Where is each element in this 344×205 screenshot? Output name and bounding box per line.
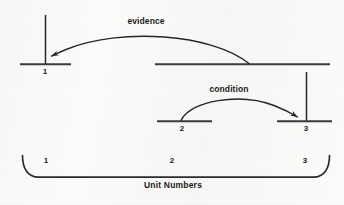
label-brace-unit-1: 1 bbox=[44, 157, 49, 165]
label-segment-middle-left-number: 2 bbox=[180, 125, 185, 133]
label-segment-top-left-number: 1 bbox=[43, 68, 48, 76]
unit-numbers-brace bbox=[23, 156, 330, 178]
label-arc-condition: condition bbox=[209, 85, 248, 94]
label-brace-unit-2: 2 bbox=[170, 157, 175, 165]
caption-unit-numbers: Unit Numbers bbox=[144, 181, 202, 190]
label-segment-middle-right-number: 3 bbox=[304, 125, 309, 133]
diagram-canvas: 1 evidence 2 3 condition 1 2 3 Unit Numb… bbox=[0, 0, 344, 205]
label-arc-evidence: evidence bbox=[127, 17, 164, 26]
label-brace-unit-3: 3 bbox=[303, 157, 308, 165]
arc-evidence bbox=[52, 36, 250, 63]
diagram-vector-layer bbox=[0, 0, 344, 205]
arc-condition bbox=[181, 99, 298, 120]
